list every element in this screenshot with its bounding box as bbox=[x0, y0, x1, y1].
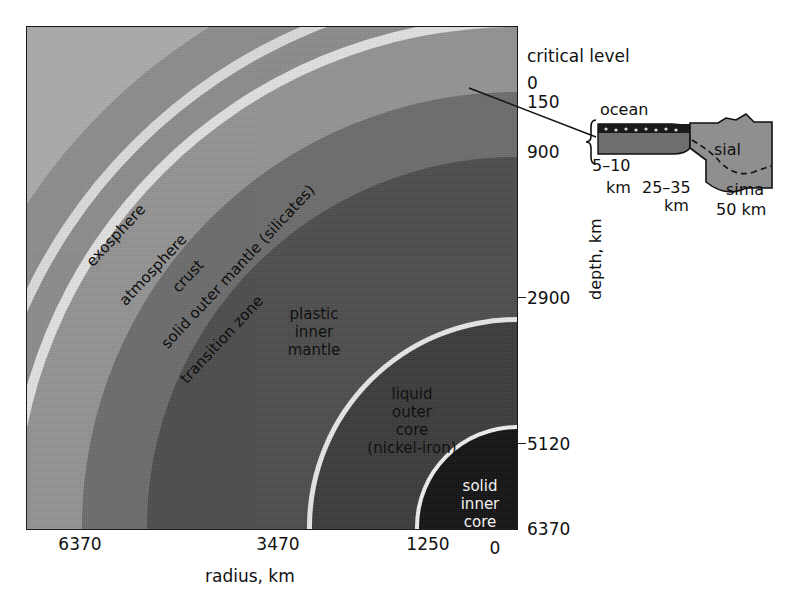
ytick-900: 900 bbox=[527, 142, 559, 162]
earth-cross-section-panel: exosphere atmosphere crust solid outer m… bbox=[26, 26, 518, 530]
label-plastic-inner-mantle: plastic inner mantle bbox=[259, 305, 369, 359]
inner-core-line-2: inner bbox=[445, 495, 515, 513]
ytick-mark-5120 bbox=[518, 443, 526, 444]
inner-core-line-3: core bbox=[445, 513, 515, 530]
inset-label-continental-thickness: 25–35 bbox=[642, 178, 691, 197]
plastic-line-2: inner bbox=[259, 323, 369, 341]
inset-label-ocean: ocean bbox=[600, 100, 648, 119]
inset-label-root-depth: 50 km bbox=[716, 200, 766, 219]
earth-structure-figure: exosphere atmosphere crust solid outer m… bbox=[0, 0, 791, 604]
plastic-line-3: mantle bbox=[259, 341, 369, 359]
ytick-critical-level: critical level bbox=[527, 46, 630, 66]
inset-label-ocean-thickness-unit: km bbox=[606, 178, 631, 197]
outer-core-line-1: liquid bbox=[347, 385, 477, 403]
ytick-150: 150 bbox=[527, 92, 559, 112]
ytick-mark-2900 bbox=[518, 297, 526, 298]
crust-detail-inset: ocean sial sima 5–10 km 25–35 km 50 km bbox=[586, 96, 786, 216]
label-liquid-outer-core: liquid outer core (nickel-iron) bbox=[347, 385, 477, 457]
ytick-6370: 6370 bbox=[527, 519, 570, 539]
plastic-line-1: plastic bbox=[259, 305, 369, 323]
inset-label-continental-thickness-unit: km bbox=[664, 196, 689, 215]
outer-core-line-3: core bbox=[347, 421, 477, 439]
ytick-2900: 2900 bbox=[527, 288, 570, 308]
xtick-1250: 1250 bbox=[388, 534, 468, 554]
ytick-0: 0 bbox=[527, 73, 538, 93]
xtick-0: 0 bbox=[480, 538, 510, 558]
xtick-6370: 6370 bbox=[40, 534, 120, 554]
inset-label-ocean-thickness: 5–10 bbox=[592, 156, 631, 175]
x-axis-title: radius, km bbox=[205, 566, 295, 586]
inset-label-sima: sima bbox=[726, 180, 764, 199]
outer-core-line-4: (nickel-iron) bbox=[347, 439, 477, 457]
ytick-5120: 5120 bbox=[527, 434, 570, 454]
inset-label-sial: sial bbox=[714, 140, 741, 159]
outer-core-line-2: outer bbox=[347, 403, 477, 421]
xtick-3470: 3470 bbox=[238, 534, 318, 554]
label-solid-inner-core: solid inner core bbox=[445, 477, 515, 530]
inner-core-line-1: solid bbox=[445, 477, 515, 495]
y-axis-title: depth, km bbox=[586, 218, 605, 300]
